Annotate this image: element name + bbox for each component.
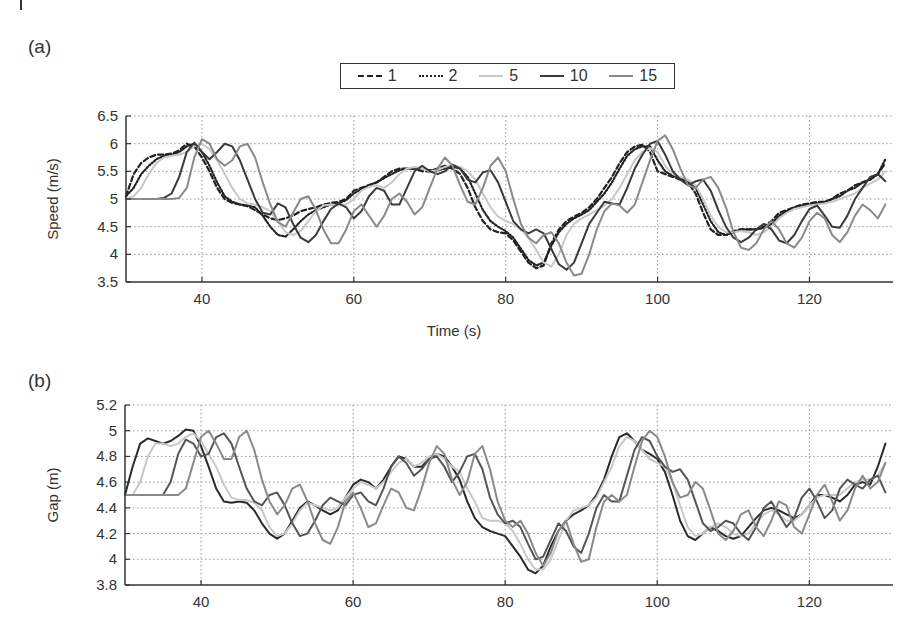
y-tick-label: 4.4 xyxy=(96,499,117,516)
y-tick-label: 5.2 xyxy=(96,396,117,413)
y-tick-label: 3.8 xyxy=(96,576,117,593)
y-tick-label: 5.5 xyxy=(97,162,118,179)
x-tick-label: 120 xyxy=(797,593,822,610)
x-tick-label: 100 xyxy=(645,593,670,610)
series-line-10 xyxy=(125,433,885,559)
y-tick-label: 3.5 xyxy=(97,273,118,290)
x-tick-label: 40 xyxy=(193,593,210,610)
y-axis-title: Gap (m) xyxy=(44,467,61,522)
y-tick-label: 5 xyxy=(109,422,117,439)
x-tick-label: 80 xyxy=(497,290,514,307)
x-axis-title: Time (s) xyxy=(427,322,481,339)
y-tick-label: 4 xyxy=(110,245,118,262)
gridlines xyxy=(125,405,893,585)
x-tick-label: 60 xyxy=(345,290,362,307)
x-tick-label: 60 xyxy=(345,593,362,610)
y-tick-label: 4.2 xyxy=(96,525,117,542)
y-tick-label: 5 xyxy=(110,190,118,207)
y-tick-label: 4 xyxy=(109,550,117,567)
y-tick-label: 6.5 xyxy=(97,107,118,124)
chart-canvas: 3.544.555.566.5406080100120Speed (m/s)Ti… xyxy=(0,0,924,620)
y-tick-label: 6 xyxy=(110,135,118,152)
x-tick-label: 40 xyxy=(194,290,211,307)
speed-plot: 3.544.555.566.5406080100120Speed (m/s)Ti… xyxy=(44,107,893,339)
y-tick-label: 4.6 xyxy=(96,473,117,490)
x-tick-label: 80 xyxy=(497,593,514,610)
y-tick-label: 4.8 xyxy=(96,447,117,464)
gap-plot: 3.844.24.44.64.855.2406080100120Gap (m) xyxy=(44,396,893,610)
x-tick-label: 120 xyxy=(797,290,822,307)
y-axis-title: Speed (m/s) xyxy=(44,158,61,240)
x-tick-label: 100 xyxy=(645,290,670,307)
y-tick-label: 4.5 xyxy=(97,218,118,235)
